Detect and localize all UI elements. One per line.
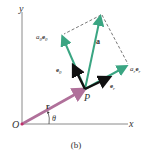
- a-vector-label: a: [96, 37, 100, 46]
- e-theta-unit-vector: [74, 67, 85, 89]
- acceleration-vector-a: [85, 18, 100, 89]
- polar-coordinates-diagram: y x O P r θ a aθeθ arer eθ er (b): [0, 0, 151, 160]
- theta-arc: [48, 112, 49, 124]
- svg-text:arer: arer: [130, 65, 141, 74]
- a-r-label: arer: [130, 65, 141, 74]
- r-vector-label: r: [46, 102, 50, 111]
- svg-text:er: er: [110, 82, 115, 91]
- e-theta-label: eθ: [56, 66, 62, 75]
- svg-text:aθeθ: aθeθ: [36, 33, 48, 42]
- a-theta-label: aθeθ: [36, 33, 48, 42]
- figure-caption: (b): [71, 140, 82, 150]
- origin-dot: [20, 122, 23, 125]
- svg-text:eθ: eθ: [56, 66, 62, 75]
- e-r-label: er: [110, 82, 115, 91]
- y-axis-label: y: [18, 3, 24, 14]
- origin-label: O: [12, 119, 19, 130]
- point-P-label: P: [83, 92, 90, 103]
- e-r-unit-vector: [85, 78, 108, 89]
- x-axis-label: x: [128, 118, 134, 129]
- theta-angle-label: θ: [52, 114, 56, 123]
